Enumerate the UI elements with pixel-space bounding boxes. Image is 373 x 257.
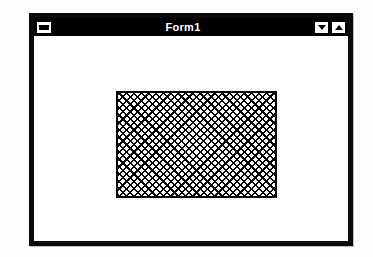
- titlebar-button-group: [314, 21, 346, 34]
- triangle-up-icon: [335, 25, 343, 30]
- minimize-bar-icon: [39, 25, 49, 30]
- page-background: Form1: [0, 0, 373, 257]
- form-client-area[interactable]: [34, 36, 348, 241]
- system-menu-button[interactable]: [36, 21, 52, 34]
- minimize-button[interactable]: [314, 21, 329, 34]
- title-bar[interactable]: Form1: [34, 18, 348, 36]
- hatched-rectangle-shape[interactable]: [116, 91, 277, 198]
- form-window[interactable]: Form1: [29, 13, 353, 246]
- triangle-down-icon: [318, 25, 326, 30]
- window-title: Form1: [52, 18, 314, 36]
- maximize-button[interactable]: [331, 21, 346, 34]
